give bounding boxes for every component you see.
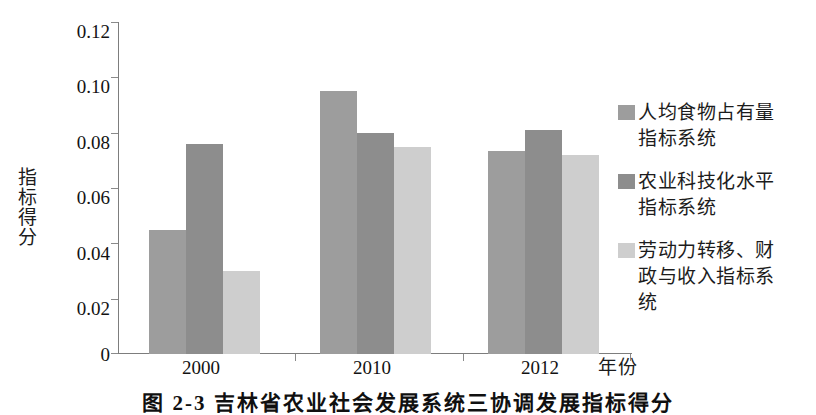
y-tick-mark-0.08 [111, 133, 118, 134]
bar-2000-series-3 [223, 271, 260, 354]
y-tick-mark-0.02 [111, 299, 118, 300]
y-tick-mark-0.06 [111, 188, 118, 189]
legend-label-series-3-line2: 政与收入指标系 [638, 264, 814, 290]
legend-item-2[interactable]: 农业科技化水平 指标系统 [618, 169, 814, 221]
bar-2000-series-1 [149, 230, 186, 355]
legend-swatch-icon-series-3 [618, 243, 635, 258]
y-tick-mark-0 [111, 353, 118, 354]
legend-item-3[interactable]: 劳动力转移、财 政与收入指标系 统 [618, 238, 814, 316]
y-tick-label-0.10: 0.10 [48, 77, 110, 96]
plot-area [118, 22, 632, 354]
y-tick-mark-0.12 [111, 22, 118, 23]
legend-item-1[interactable]: 人均食物占有量 指标系统 [618, 100, 814, 152]
legend-swatch-icon-series-1 [618, 105, 635, 120]
y-tick-mark-0.10 [111, 77, 118, 78]
chart-legend: 人均食物占有量 指标系统 农业科技化水平 指标系统 劳动力转移、财 政与收入指标… [618, 100, 814, 333]
x-tick-mark-1 [295, 354, 296, 361]
legend-label-series-3-line1: 劳动力转移、财 [638, 238, 814, 264]
y-tick-mark-0.04 [111, 243, 118, 244]
bar-2012-series-1 [488, 151, 525, 354]
bar-2010-series-2 [357, 133, 394, 354]
y-tick-label-0.12: 0.12 [48, 22, 110, 41]
legend-label-series-1-line1: 人均食物占有量 [638, 100, 814, 126]
legend-label-series-2-line2: 指标系统 [638, 195, 814, 221]
y-axis-title: 指标得分 [6, 132, 46, 282]
x-tick-label-2012: 2012 [495, 358, 585, 377]
legend-label-series-2-line1: 农业科技化水平 [638, 169, 814, 195]
y-axis-line [118, 22, 119, 354]
bar-2000-series-2 [186, 144, 223, 354]
bar-2012-series-3 [562, 155, 599, 354]
y-tick-label-0.08: 0.08 [48, 133, 110, 152]
legend-swatch-icon-series-2 [618, 174, 635, 189]
y-axis-tick-labels: 0.12 0.10 0.08 0.06 0.04 0.02 0 [48, 0, 110, 415]
bar-2012-series-2 [525, 130, 562, 354]
y-tick-label-0.02: 0.02 [48, 299, 110, 318]
bar-2010-series-3 [394, 147, 431, 355]
legend-label-series-1-line2: 指标系统 [638, 126, 814, 152]
bar-2010-series-1 [320, 91, 357, 354]
x-tick-label-2000: 2000 [156, 358, 246, 377]
x-tick-mark-2 [463, 354, 464, 361]
bar-chart-figure: 指标得分 0.12 0.10 0.08 0.06 0.04 0.02 0 [0, 0, 816, 415]
x-axis-title: 年份 [598, 358, 638, 377]
y-tick-label-0.04: 0.04 [48, 244, 110, 263]
y-tick-label-0: 0 [48, 345, 110, 364]
legend-label-series-3-line3: 统 [638, 290, 814, 316]
y-axis-title-text: 指标得分 [17, 167, 36, 247]
figure-caption: 图 2-3 吉林省农业社会发展系统三协调发展指标得分 [0, 390, 816, 415]
x-tick-label-2010: 2010 [327, 358, 417, 377]
y-tick-label-0.06: 0.06 [48, 188, 110, 207]
